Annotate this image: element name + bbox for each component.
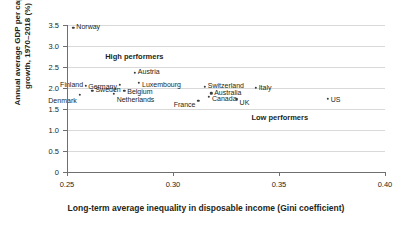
gridline [67,130,385,131]
gridline [67,46,385,47]
y-tick: 0 [0,172,59,181]
data-point [123,90,125,92]
data-point [79,94,81,96]
data-point [134,72,136,74]
y-tick-label: 0 [0,168,59,177]
data-point-label: Italy [259,84,272,91]
data-point-label: UK [240,99,250,106]
gridline [67,109,385,110]
data-point-label: France [174,101,196,108]
data-point [197,99,199,101]
plot-area: NorwayAustriaLuxembourgGermanyFinlandSwi… [67,25,385,172]
y-axis-line [67,25,68,172]
y-tick-mark [63,46,67,47]
y-tick-label: 1.0 [0,126,59,135]
data-point-label: Belgium [127,88,152,95]
y-tick-label: 0.5 [0,147,59,156]
data-point-label: Netherlands [117,96,155,103]
data-point [112,93,114,95]
data-point [72,26,74,28]
scatter-chart: NorwayAustriaLuxembourgGermanyFinlandSwi… [0,0,412,225]
x-tick-label: 0.40 [378,180,393,189]
y-tick-mark [63,88,67,89]
y-tick-mark [63,25,67,26]
data-point-label: US [331,96,341,103]
data-point [208,96,210,98]
gridline [67,25,385,26]
data-point-label: Norway [76,23,100,30]
data-point [85,85,87,87]
x-tick-label: 0.25 [60,180,75,189]
y-tick-mark [63,109,67,110]
gridline [67,67,385,68]
data-point [138,81,140,83]
chart-annotation: Low performers [251,113,308,122]
x-tick-mark [67,172,68,176]
y-axis-title: Annual average GDP per capita growth, 19… [13,0,33,121]
x-tick-mark [279,172,280,176]
x-axis-line [67,172,385,173]
data-point-label: Canada [212,95,237,102]
data-point-label: Denmark [48,97,76,104]
x-tick-label: 0.35 [272,180,287,189]
data-point [210,92,212,94]
data-point-label: Sweden [95,86,120,93]
y-tick-mark [63,151,67,152]
y-tick: 0.5 [0,151,59,160]
gridline [67,151,385,152]
x-axis-title: Long-term average inequality in disposab… [0,203,412,213]
y-tick-mark [63,130,67,131]
chart-annotation: High performers [105,52,163,61]
data-point-label: Austria [138,68,160,75]
y-tick-mark [63,67,67,68]
data-point [327,98,329,100]
data-point-label: Luxembourg [142,81,181,88]
y-tick: 1.0 [0,130,59,139]
x-tick-mark [385,172,386,176]
x-tick-mark [173,172,174,176]
x-tick-label: 0.30 [166,180,181,189]
